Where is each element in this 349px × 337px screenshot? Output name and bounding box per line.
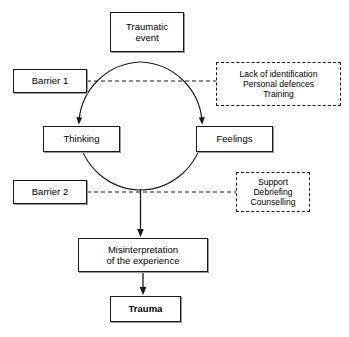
node-misinterpretation-line-2: of the experience bbox=[107, 255, 180, 266]
node-thinking-label: Thinking bbox=[64, 133, 100, 144]
node-barrier-2-detail: Support Debriefing Counselling bbox=[236, 172, 310, 212]
node-feelings-label: Feelings bbox=[217, 133, 253, 144]
node-barrier-2-label: Barrier 2 bbox=[32, 186, 68, 197]
node-barrier-1-detail-line-3: Training bbox=[263, 89, 294, 99]
node-traumatic-event-line-1: Traumatic bbox=[126, 21, 168, 32]
node-misinterpretation-line-1: Misinterpretation bbox=[108, 244, 178, 255]
node-barrier-2-detail-line-3: Counselling bbox=[251, 197, 296, 207]
cycle-arc-lower-right bbox=[141, 136, 203, 190]
trauma-cycle-diagram: Traumatic event Barrier 1 Barrier 2 Thin… bbox=[0, 0, 349, 337]
node-misinterpretation: Misinterpretation of the experience bbox=[78, 238, 208, 272]
node-traumatic-event-line-2: event bbox=[135, 32, 158, 43]
node-barrier-2-detail-line-2: Debriefing bbox=[253, 187, 292, 197]
node-trauma: Trauma bbox=[110, 296, 181, 322]
node-barrier-2: Barrier 2 bbox=[13, 180, 87, 204]
node-barrier-1: Barrier 1 bbox=[13, 69, 87, 93]
node-barrier-1-detail: Lack of identification Personal defences… bbox=[216, 62, 341, 106]
node-barrier-2-detail-line-1: Support bbox=[258, 177, 288, 187]
node-barrier-1-label: Barrier 1 bbox=[32, 75, 68, 86]
node-barrier-1-detail-line-1: Lack of identification bbox=[240, 69, 318, 79]
node-barrier-1-detail-line-2: Personal defences bbox=[243, 79, 314, 89]
arrow-cycle-to-feelings bbox=[141, 62, 203, 121]
node-feelings: Feelings bbox=[196, 126, 273, 152]
node-traumatic-event: Traumatic event bbox=[110, 12, 184, 52]
node-trauma-label: Trauma bbox=[129, 303, 163, 314]
node-thinking: Thinking bbox=[43, 126, 120, 152]
arrow-cycle-to-thinking bbox=[79, 62, 141, 121]
